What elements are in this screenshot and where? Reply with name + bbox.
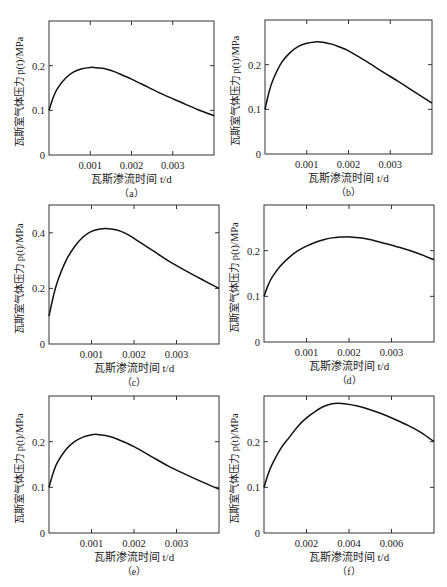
x-tick-label: 0.001 <box>80 349 104 360</box>
y-tick-label: 0.1 <box>247 482 260 493</box>
y-tick-label: 0 <box>256 149 261 160</box>
panel-caption: （d） <box>337 375 362 386</box>
x-axis-label: 瓦斯渗流时间 t/d <box>308 171 389 184</box>
x-axis-label: 瓦斯渗流时间 t/d <box>91 172 172 185</box>
x-tick-label: 0.001 <box>78 160 102 171</box>
x-tick-label: 0.001 <box>80 538 104 549</box>
x-tick-label: 0.002 <box>120 160 144 171</box>
x-tick-label: 0.004 <box>337 538 361 549</box>
pressure-curve <box>264 237 434 296</box>
chart-panel-e: 0.0010.0020.00300.10.2瓦斯渗流时间 t/d（e）瓦斯室气体… <box>13 396 219 577</box>
y-tick-label: 0.2 <box>32 437 45 448</box>
x-tick-label: 0.003 <box>165 349 189 360</box>
y-tick-label: 0 <box>40 150 45 161</box>
x-tick-label: 0.006 <box>380 538 404 549</box>
x-tick-label: 0.001 <box>295 159 319 170</box>
x-axis-label: 瓦斯渗流时间 t/d <box>309 550 390 563</box>
chart-panel-b: 0.0010.0020.00300.10.2瓦斯渗流时间 t/d（b）瓦斯室气体… <box>229 20 432 198</box>
y-tick-label: 0 <box>40 339 45 350</box>
plot-frame <box>264 205 434 342</box>
x-tick-label: 0.002 <box>337 347 361 358</box>
y-axis-label: 瓦斯室气体压力 p(t)/MPa <box>13 413 26 524</box>
y-tick-label: 0.1 <box>32 482 45 493</box>
y-axis-label: 瓦斯室气体压力 p(t)/MPa <box>228 222 241 333</box>
y-tick-label: 0.2 <box>247 246 260 257</box>
y-axis-label: 瓦斯室气体压力 p(t)/MPa <box>228 413 241 524</box>
pressure-curve <box>49 229 219 317</box>
x-tick-label: 0.003 <box>161 160 185 171</box>
y-tick-label: 0.4 <box>32 228 46 239</box>
y-axis-label: 瓦斯室气体压力 p(t)/MPa <box>13 223 26 334</box>
panel-caption: （c） <box>122 377 146 388</box>
y-tick-label: 0.2 <box>247 437 260 448</box>
y-axis-label: 瓦斯室气体压力 p(t)/MPa <box>229 35 242 146</box>
chart-panel-a: 0.0010.0020.00300.10.2瓦斯渗流时间 t/d（a）瓦斯室气体… <box>13 21 214 199</box>
pressure-curve <box>49 434 219 489</box>
chart-panel-d: 0.0010.0020.00300.10.2瓦斯渗流时间 t/d（d）瓦斯室气体… <box>228 205 434 386</box>
panel-caption: （b） <box>336 187 361 198</box>
x-tick-label: 0.002 <box>122 349 146 360</box>
panel-caption: （e） <box>122 566 146 577</box>
y-tick-label: 0.1 <box>32 105 45 116</box>
y-tick-label: 0 <box>255 337 260 348</box>
panel-caption: （a） <box>119 188 143 199</box>
pressure-curve <box>264 403 434 487</box>
plot-frame <box>49 21 214 155</box>
pressure-curve <box>265 42 432 110</box>
y-tick-label: 0.1 <box>247 291 260 302</box>
x-tick-label: 0.002 <box>295 538 319 549</box>
y-tick-label: 0.1 <box>248 104 261 115</box>
panel-caption: （f） <box>337 566 360 577</box>
plot-frame <box>264 396 434 533</box>
y-tick-label: 0.2 <box>248 60 261 71</box>
x-tick-label: 0.003 <box>165 538 189 549</box>
y-tick-label: 0.2 <box>32 61 45 72</box>
y-tick-label: 0.2 <box>32 283 45 294</box>
x-axis-label: 瓦斯渗流时间 t/d <box>309 359 390 372</box>
x-tick-label: 0.003 <box>378 159 402 170</box>
x-axis-label: 瓦斯渗流时间 t/d <box>94 361 175 374</box>
plot-frame <box>49 396 219 533</box>
y-axis-label: 瓦斯室气体压力 p(t)/MPa <box>13 36 26 147</box>
x-tick-label: 0.002 <box>122 538 146 549</box>
chart-panel-c: 0.0010.0020.00300.20.4瓦斯渗流时间 t/d（c）瓦斯室气体… <box>13 205 219 388</box>
x-tick-label: 0.003 <box>380 347 404 358</box>
x-tick-label: 0.001 <box>295 347 319 358</box>
pressure-curve <box>49 67 214 115</box>
y-tick-label: 0 <box>40 528 45 539</box>
y-tick-label: 0 <box>255 528 260 539</box>
chart-panel-f: 0.0020.0040.00600.10.2瓦斯渗流时间 t/d（f）瓦斯室气体… <box>228 396 434 577</box>
x-axis-label: 瓦斯渗流时间 t/d <box>94 550 175 563</box>
x-tick-label: 0.002 <box>337 159 361 170</box>
